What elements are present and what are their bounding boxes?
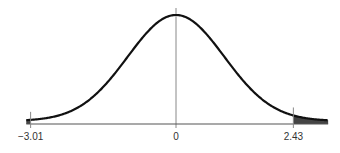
density-curve <box>26 15 327 120</box>
normal-curve-chart: −3.0102.43 <box>0 0 340 153</box>
tick-label: −3.01 <box>18 131 44 142</box>
tick-label: 0 <box>173 131 179 142</box>
tick-label: 2.43 <box>284 131 304 142</box>
